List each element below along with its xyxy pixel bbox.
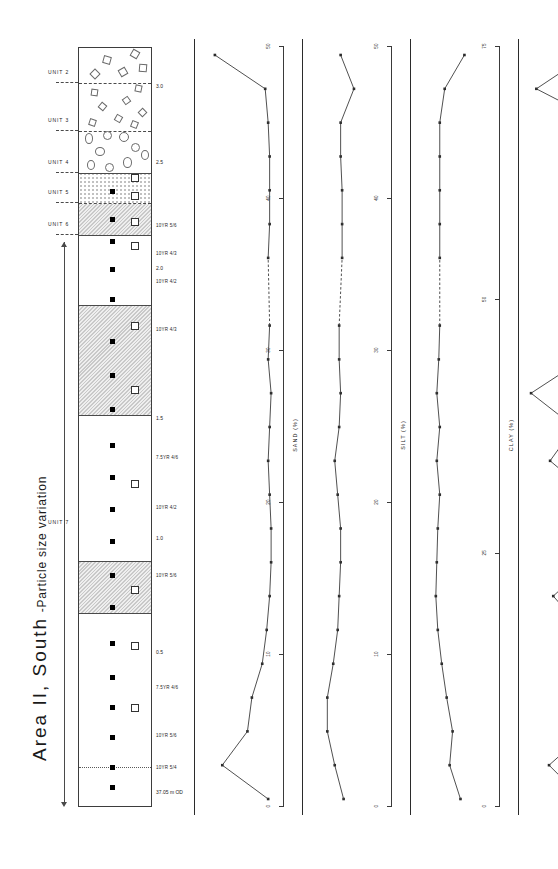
series-segment xyxy=(339,359,340,393)
depth-tick-label: 2.5 xyxy=(156,159,163,165)
angular-clast xyxy=(91,88,99,96)
panel-clay: 0255075 CLAY (%) xyxy=(410,35,518,835)
monolith-marker xyxy=(131,321,139,329)
monolith-marker xyxy=(131,173,139,181)
column-body xyxy=(78,47,152,807)
series-segment xyxy=(215,55,265,89)
series-silt xyxy=(308,47,392,807)
axis-tick: 20 xyxy=(387,502,392,503)
sample-square xyxy=(110,239,115,244)
panel-separator xyxy=(194,39,195,815)
sample-square xyxy=(110,443,115,448)
data-point xyxy=(339,53,342,56)
axis-clay: 0255075 xyxy=(499,47,500,807)
axis-label-sand: SAND (%) xyxy=(292,418,298,452)
sample-square xyxy=(110,217,115,222)
series-segment xyxy=(267,596,270,630)
series-segment xyxy=(339,393,340,427)
unit-label-6: UNIT 6 xyxy=(48,221,69,227)
angular-clast xyxy=(139,63,148,72)
band-shaded-unit6 xyxy=(79,204,151,236)
sample-square xyxy=(110,267,115,272)
axis-tick-label: 30 xyxy=(374,347,379,353)
series-segment xyxy=(270,393,271,427)
series-segment xyxy=(437,393,440,427)
series-segment xyxy=(341,55,354,89)
series-segment xyxy=(262,629,266,663)
series-segment xyxy=(222,731,247,765)
gravel-clast xyxy=(87,160,95,170)
axis-tick: 50 xyxy=(387,46,392,47)
series-segment xyxy=(445,55,465,89)
unit4-divider xyxy=(56,172,78,173)
axis-tick-label: 0 xyxy=(482,804,487,807)
figure-stage: UNIT 7 UNIT 6 UNIT 5 UNIT 4 UNIT 3 UNIT … xyxy=(44,35,514,835)
boundary-4 xyxy=(79,305,151,306)
depth-tick-label: 3.0 xyxy=(156,83,163,89)
axis-tick-label: 10 xyxy=(266,651,271,657)
series-segment xyxy=(437,460,440,494)
series-clay xyxy=(416,47,500,807)
series-segment xyxy=(531,393,558,427)
monolith-marker xyxy=(131,241,139,249)
munsell-label: 10YR 4/3 xyxy=(156,327,177,332)
series-segment xyxy=(536,88,558,122)
axis-tick-label: 0 xyxy=(374,804,379,807)
plot-area-silt xyxy=(308,47,392,807)
axis-tick: 20 xyxy=(279,502,284,503)
series-segment xyxy=(327,663,333,697)
panel-separator xyxy=(410,39,411,815)
series-segment xyxy=(436,596,438,630)
monolith-marker xyxy=(131,641,139,649)
series-segment xyxy=(437,359,439,393)
panel-silt: 01020304050 SILT (%) xyxy=(302,35,410,835)
monolith-marker xyxy=(131,385,139,393)
series-segment xyxy=(268,460,269,494)
axis-label-clay: CLAY (%) xyxy=(508,418,514,450)
series-segment xyxy=(222,765,268,799)
series-segment xyxy=(438,629,442,663)
series-segment xyxy=(333,629,337,663)
axis-tick: 10 xyxy=(279,654,284,655)
series-segment xyxy=(553,562,558,596)
series-segment xyxy=(268,427,269,461)
sample-square xyxy=(110,507,115,512)
series-segment xyxy=(327,731,334,765)
axis-tick: 10 xyxy=(387,654,392,655)
sample-square xyxy=(110,297,115,302)
axis-tick: 25 xyxy=(495,552,500,553)
gravel-clast xyxy=(105,163,114,172)
sample-square xyxy=(110,573,115,578)
series-segment xyxy=(247,697,251,731)
unit-bracket-row: UNIT 7 UNIT 6 UNIT 5 UNIT 4 UNIT 3 UNIT … xyxy=(50,47,76,807)
series-segment xyxy=(338,494,341,528)
sample-square xyxy=(110,675,115,680)
series-segment xyxy=(268,325,269,359)
plot-area-organic-carbon xyxy=(524,47,558,807)
axis-tick: 50 xyxy=(279,46,284,47)
sample-square xyxy=(110,475,115,480)
unit7-arrow-left xyxy=(61,802,67,807)
series-segment xyxy=(450,731,453,765)
sample-square xyxy=(110,407,115,412)
series-segment xyxy=(338,596,339,630)
band-shaded-1 xyxy=(79,562,151,614)
unit-label-2: UNIT 2 xyxy=(48,69,69,75)
series-segment xyxy=(437,427,440,461)
boundary-3 xyxy=(79,415,151,416)
gravel-clast xyxy=(103,131,112,140)
series-segment xyxy=(531,359,558,393)
series-segment xyxy=(442,663,447,697)
axis-tick: 30 xyxy=(387,350,392,351)
boundary-9 xyxy=(79,83,151,84)
unit-label-3: UNIT 3 xyxy=(48,117,69,123)
gravel-clast xyxy=(123,157,132,168)
axis-tick: 30 xyxy=(279,350,284,351)
plot-area-clay xyxy=(416,47,500,807)
gravel-clast xyxy=(141,150,149,160)
series-sand xyxy=(200,47,284,807)
axis-tick-label: 40 xyxy=(266,195,271,201)
data-point xyxy=(214,53,217,56)
sample-square xyxy=(110,785,115,790)
unit2-divider xyxy=(56,82,78,83)
